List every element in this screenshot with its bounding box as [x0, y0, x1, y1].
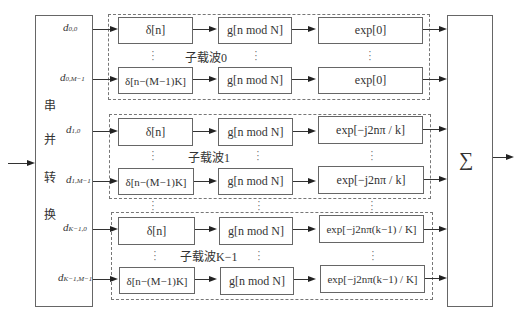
input-symbol-dkm: dK−1,M−1	[58, 271, 92, 283]
line	[425, 278, 439, 279]
arrowhead	[439, 275, 447, 281]
sigma-symbol: ∑	[459, 148, 473, 171]
subcarrier-0-label: 子载波0	[185, 48, 227, 66]
line	[292, 79, 309, 80]
line	[423, 29, 439, 30]
input-symbol-d1m: d1,M−1	[66, 173, 91, 185]
output-arrowhead	[506, 154, 514, 160]
line	[293, 229, 309, 230]
vertical-ellipsis: ···	[150, 50, 156, 62]
arrowhead	[439, 126, 447, 132]
arrowhead	[308, 128, 316, 134]
line	[193, 131, 210, 132]
vertical-ellipsis: ···	[150, 150, 156, 162]
arrowhead	[439, 26, 447, 32]
arrowhead	[439, 76, 447, 82]
input-line	[8, 163, 28, 164]
vertical-ellipsis: ···	[152, 250, 158, 262]
arrowhead	[439, 176, 447, 182]
input-arrowhead	[27, 160, 35, 166]
line	[93, 29, 111, 30]
g-block: g[n mod N]	[218, 67, 292, 94]
arrowhead	[110, 76, 118, 82]
delta-block: δ[n−(M−1)K]	[118, 168, 194, 195]
line	[292, 29, 309, 30]
input-symbol-d0m: d0,M−1	[60, 71, 85, 83]
arrowhead	[110, 178, 118, 184]
delta-block: δ[n]	[118, 17, 193, 44]
output-line	[493, 157, 507, 158]
vertical-ellipsis: ···	[255, 150, 261, 162]
exp-block: exp[−j2nπ(k−1) / K]	[319, 215, 424, 243]
arrowhead	[110, 128, 118, 134]
exp-block: exp[−j2nπ / k]	[318, 166, 424, 194]
arrowhead	[209, 276, 217, 282]
line	[193, 29, 210, 30]
converter-char-2: 并	[44, 130, 56, 148]
line	[293, 181, 309, 182]
exp-block: exp[0]	[318, 17, 423, 44]
arrowhead	[209, 178, 217, 184]
exp-block: exp[−j2nπ(k−1) / K]	[320, 265, 425, 293]
input-symbol-dk0: dK−1,0	[63, 221, 87, 233]
g-block: g[n mod N]	[220, 267, 294, 295]
line	[93, 131, 111, 132]
line	[293, 131, 309, 132]
line	[294, 279, 309, 280]
g-block: g[n mod N]	[219, 217, 293, 245]
delta-block: δ[n−(M−1)K]	[118, 67, 193, 94]
arrowhead	[209, 128, 217, 134]
subcarrier-1-label: 子载波1	[188, 148, 230, 166]
vertical-ellipsis: ···	[367, 50, 373, 62]
line	[194, 181, 210, 182]
line	[423, 79, 439, 80]
subcarrier-k-1-label: 子载波K−1	[180, 247, 237, 265]
arrowhead	[308, 26, 316, 32]
vertical-ellipsis: ···	[369, 150, 375, 162]
line	[93, 279, 111, 280]
g-block: g[n mod N]	[218, 118, 293, 146]
arrowhead	[308, 76, 316, 82]
arrowhead	[308, 178, 316, 184]
delta-block: δ[n−(M−1)K]	[119, 267, 195, 294]
serial-parallel-converter	[35, 15, 93, 307]
g-block: g[n mod N]	[218, 17, 292, 44]
vertical-ellipsis: ···	[256, 250, 262, 262]
line	[93, 181, 111, 182]
delta-block: δ[n]	[118, 217, 195, 245]
arrowhead	[209, 226, 217, 232]
vertical-ellipsis: ···	[256, 200, 262, 212]
exp-block: exp[−j2nπ / k]	[318, 116, 423, 144]
line	[93, 229, 111, 230]
vertical-ellipsis: ···	[253, 50, 259, 62]
line	[195, 279, 210, 280]
line	[93, 79, 111, 80]
line	[424, 179, 439, 180]
input-symbol-d10: d1,0	[66, 123, 80, 135]
vertical-ellipsis: ···	[150, 200, 156, 212]
vertical-ellipsis: ···	[369, 200, 375, 212]
converter-char-1: 串	[44, 96, 56, 114]
g-block: g[n mod N]	[218, 168, 293, 195]
arrowhead	[308, 226, 316, 232]
delta-block: δ[n]	[118, 118, 193, 146]
converter-char-4: 换	[44, 205, 56, 223]
line	[193, 79, 210, 80]
converter-char-3: 转	[44, 168, 56, 186]
arrowhead	[110, 26, 118, 32]
line	[424, 229, 439, 230]
line	[195, 229, 210, 230]
arrowhead	[308, 276, 316, 282]
arrowhead	[209, 76, 217, 82]
exp-block: exp[0]	[318, 67, 423, 94]
input-symbol-d00: d0,0	[63, 21, 77, 33]
line	[423, 129, 439, 130]
arrowhead	[439, 226, 447, 232]
arrowhead	[209, 26, 217, 32]
arrowhead	[110, 226, 118, 232]
arrowhead	[110, 276, 118, 282]
vertical-ellipsis: ···	[370, 250, 376, 262]
